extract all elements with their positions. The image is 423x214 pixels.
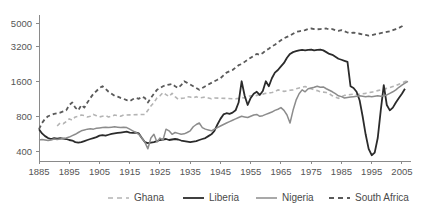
x-tick-label: 1975 xyxy=(301,166,322,177)
y-tick-label: 400 xyxy=(16,146,32,157)
x-tick-label: 1895 xyxy=(59,166,80,177)
x-tick-label: 2005 xyxy=(391,166,412,177)
legend-label-ghana[interactable]: Ghana xyxy=(134,192,164,203)
legend-label-south-africa[interactable]: South Africa xyxy=(355,192,409,203)
y-tick-label: 1600 xyxy=(11,76,32,87)
x-tick-label: 1935 xyxy=(180,166,201,177)
x-tick-label: 1945 xyxy=(210,166,231,177)
x-tick-label: 1985 xyxy=(331,166,352,177)
x-tick-label: 1995 xyxy=(361,166,382,177)
x-tick-label: 1905 xyxy=(89,166,110,177)
chart-container: 400800160032005000 188518951905191519251… xyxy=(0,0,423,214)
x-tick-label: 1965 xyxy=(270,166,291,177)
x-tick-label: 1925 xyxy=(149,166,170,177)
legend-label-liberia[interactable]: Liberia xyxy=(209,192,239,203)
x-tick-label: 1885 xyxy=(28,166,49,177)
x-axis-ticks: 1885189519051915192519351945195519651975… xyxy=(28,161,412,177)
x-tick-label: 1915 xyxy=(119,166,140,177)
series-line-ghana xyxy=(57,81,408,126)
y-axis-ticks: 400800160032005000 xyxy=(11,18,39,157)
y-tick-label: 3200 xyxy=(11,41,32,52)
y-tick-label: 800 xyxy=(16,111,32,122)
chart-legend: GhanaLiberiaNigeriaSouth Africa xyxy=(108,192,409,203)
y-tick-label: 5000 xyxy=(11,18,32,29)
line-chart: 400800160032005000 188518951905191519251… xyxy=(0,0,423,214)
x-tick-label: 1955 xyxy=(240,166,261,177)
data-series-group xyxy=(39,24,408,155)
legend-label-nigeria[interactable]: Nigeria xyxy=(282,192,314,203)
series-line-liberia xyxy=(39,50,405,156)
